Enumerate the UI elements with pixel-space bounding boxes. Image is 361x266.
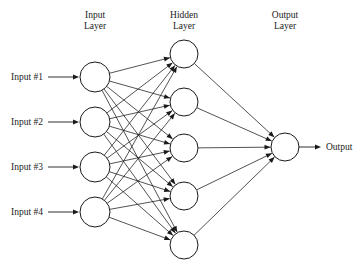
hidden-layer-node-3[interactable] [170,134,198,162]
edge-hidden4-output [197,153,272,190]
input-layer-node-3[interactable] [80,152,110,182]
edge-hidden3-output [198,147,271,148]
input-layer-node-2[interactable] [80,107,110,137]
edge-input2-hidden2 [110,105,170,119]
edge-input2-hidden1 [107,63,173,113]
network-canvas: Input Layer Hidden Layer Output Layer In… [0,0,361,266]
edge-input1-hidden4 [104,89,175,184]
hidden-layer-node-2[interactable] [170,88,198,116]
arrow-head-input4-hidden3 [166,156,172,161]
output-layer-node-1[interactable] [271,133,299,161]
output-label: Output [326,142,353,152]
hidden-layer-node-5[interactable] [170,231,198,259]
input-label-1: Input #1 [11,72,43,82]
node-group-output-layer [271,133,299,161]
arrow-head-input4-hidden2 [169,113,175,119]
arrow-head-input3-hidden2 [166,111,172,116]
arrow-head-input3-hidden4 [164,187,170,192]
arrow-head-input2-hidden2 [163,104,169,109]
hidden-layer-node-4[interactable] [170,182,198,210]
neural-network-diagram: Input Layer Hidden Layer Output Layer In… [0,0,361,266]
edge-input3-hidden4 [109,172,170,192]
edge-hidden5-output [194,157,275,235]
input-layer-node-1[interactable] [80,62,110,92]
edge-input4-hidden4 [110,199,170,210]
hidden-layer-node-1[interactable] [170,40,198,68]
arrow-head-input1-hidden2 [164,94,170,99]
node-group-input-layer [80,62,110,227]
arrow-head-input4-hidden4 [163,197,169,202]
input-label-3: Input #3 [11,162,43,172]
edge-hidden1-output [194,63,274,137]
input-label-2: Input #2 [11,117,43,127]
input-arrow-head-2 [73,119,79,124]
edge-input3-hidden1 [104,65,175,155]
edge-input4-hidden3 [107,156,172,203]
arrow-head-input4-hidden5 [164,236,170,241]
output-arrow-group: Output [299,142,353,152]
heading-output-layer: Output Layer [272,10,299,31]
arrow-head-hidden3-output [264,145,270,150]
edge-input4-hidden5 [109,217,170,240]
input-arrow-head-3 [73,164,79,169]
heading-input-layer-line2: Layer [84,21,107,31]
heading-input-layer-line1: Input [85,10,105,20]
input-label-4: Input #4 [11,207,43,217]
edge-group-input-to-hidden [102,57,177,240]
heading-output-layer-line2: Layer [274,21,297,31]
arrow-head-input1-hidden3 [166,133,172,139]
input-layer-node-4[interactable] [80,197,110,227]
edge-input4-hidden2 [104,113,174,200]
heading-hidden-layer: Hidden Layer [170,10,198,31]
arrow-head-input3-hidden3 [163,150,169,155]
edge-group-hidden-to-output [194,63,275,235]
input-arrow-group: Input #1Input #2Input #3Input #4 [11,72,79,217]
arrow-head-hidden4-output [266,153,272,158]
arrow-head-hidden2-output [265,136,271,141]
arrow-head-input2-hidden3 [164,140,170,145]
edge-input1-hidden1 [110,58,170,74]
output-arrow-head [315,144,321,149]
edge-input4-hidden1 [102,67,177,199]
input-arrow-head-4 [73,209,79,214]
heading-output-layer-line1: Output [272,10,299,20]
heading-hidden-layer-line1: Hidden [170,10,198,20]
edge-input1-hidden3 [107,86,173,139]
heading-hidden-layer-line2: Layer [173,21,196,31]
input-arrow-head-1 [73,74,79,79]
heading-input-layer: Input Layer [84,10,107,31]
